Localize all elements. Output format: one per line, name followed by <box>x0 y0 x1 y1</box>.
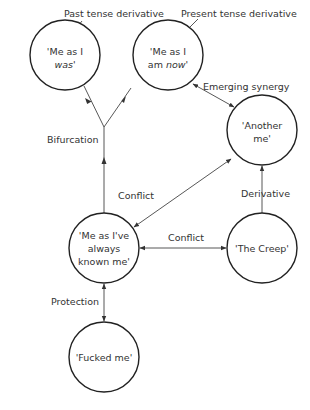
node-another-me: 'Another me' <box>227 95 297 165</box>
label-conflict-creep: Conflict <box>168 232 204 243</box>
node-label: 'Me as I <box>150 46 186 57</box>
node-label: 'Me as I've <box>79 230 129 241</box>
node-label: known me' <box>78 256 130 267</box>
arrow-up-icon <box>102 157 107 164</box>
node-me-as-ive-always-known-me: 'Me as I've always known me' <box>69 213 139 283</box>
node-fucked-me: 'Fucked me' <box>69 322 139 392</box>
label-derivative: Derivative <box>241 188 290 199</box>
label-past-tense-derivative: Past tense derivative <box>64 8 164 19</box>
node-label: 'Another <box>242 120 283 131</box>
arrow-icon <box>122 96 127 103</box>
node-me-as-i-am-now: 'Me as I am now' <box>133 20 203 90</box>
diagram-canvas: 'Me as I was' 'Me as I am now' 'Another … <box>0 0 310 410</box>
edge-fork-to-was <box>84 86 104 127</box>
node-label: me' <box>253 133 271 144</box>
edge-fork-to-now <box>104 88 131 127</box>
node-label: am now' <box>148 59 188 70</box>
node-the-creep: 'The Creep' <box>227 213 297 283</box>
label-conflict-another: Conflict <box>118 190 154 201</box>
node-label: was' <box>54 59 75 70</box>
node-label: 'Me as I <box>47 46 83 57</box>
node-me-as-i-was: 'Me as I was' <box>30 20 100 90</box>
label-protection: Protection <box>51 296 99 307</box>
node-label: always <box>88 243 121 254</box>
label-present-tense-derivative: Present tense derivative <box>181 8 297 19</box>
label-emerging-synergy: Emerging synergy <box>203 81 290 92</box>
label-bifurcation: Bifurcation <box>47 134 98 145</box>
node-label: 'Fucked me' <box>76 352 133 363</box>
node-label: 'The Creep' <box>235 243 289 254</box>
